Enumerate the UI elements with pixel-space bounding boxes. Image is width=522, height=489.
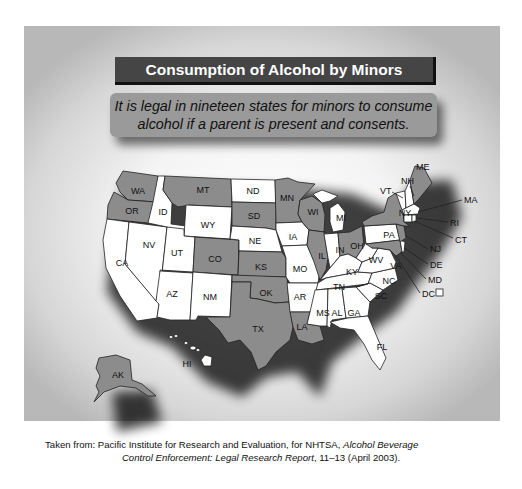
svg-text:OK: OK [259, 288, 272, 298]
svg-text:IL: IL [318, 251, 326, 261]
source-citation: Taken from: Pacific Institute for Resear… [36, 439, 486, 464]
svg-text:LA: LA [296, 322, 307, 332]
svg-text:MI: MI [336, 213, 346, 223]
svg-text:AR: AR [294, 292, 307, 302]
svg-text:NC: NC [383, 276, 396, 286]
svg-text:PA: PA [383, 230, 394, 240]
source-line-1: Taken from: Pacific Institute for Resear… [36, 439, 486, 452]
source-line-2: Control Enforcement: Legal Research Repo… [122, 452, 400, 463]
svg-text:NM: NM [203, 292, 217, 302]
svg-text:NE: NE [249, 236, 262, 246]
svg-text:KY: KY [346, 267, 358, 277]
svg-text:OH: OH [350, 241, 364, 251]
svg-text:WY: WY [201, 220, 216, 230]
svg-text:ND: ND [247, 186, 260, 196]
svg-text:OR: OR [125, 206, 139, 216]
state-RI[interactable] [412, 215, 416, 222]
svg-text:ID: ID [159, 207, 169, 217]
svg-text:NH: NH [401, 176, 414, 186]
svg-text:GA: GA [347, 308, 360, 318]
svg-text:NY: NY [399, 208, 412, 218]
svg-text:DC: DC [422, 289, 435, 299]
svg-text:DE: DE [430, 260, 443, 270]
svg-text:IN: IN [336, 245, 345, 255]
svg-text:CO: CO [208, 254, 222, 264]
svg-text:KS: KS [255, 262, 267, 272]
svg-text:CT: CT [455, 235, 467, 245]
svg-text:AL: AL [331, 308, 342, 318]
svg-text:MN: MN [280, 193, 294, 203]
svg-text:SD: SD [248, 211, 261, 221]
svg-text:CA: CA [116, 258, 129, 268]
svg-text:IA: IA [289, 232, 298, 242]
dc-marker-icon [436, 289, 443, 296]
svg-text:MS: MS [316, 308, 330, 318]
svg-text:MA: MA [464, 195, 478, 205]
svg-text:MD: MD [428, 275, 442, 285]
svg-text:NJ: NJ [430, 244, 441, 254]
svg-text:WI: WI [308, 207, 319, 217]
svg-text:AK: AK [112, 370, 124, 380]
us-map: WA OR CA NV ID MT WY UT AZ CO NM ND SD N… [0, 0, 522, 489]
svg-text:NV: NV [143, 240, 156, 250]
svg-text:MT: MT [197, 185, 210, 195]
svg-text:MO: MO [293, 264, 308, 274]
svg-text:TX: TX [252, 324, 264, 334]
svg-text:FL: FL [377, 342, 388, 352]
svg-text:WV: WV [369, 255, 384, 265]
svg-text:SC: SC [375, 291, 388, 301]
svg-text:HI: HI [183, 359, 192, 369]
svg-text:ME: ME [416, 162, 430, 172]
svg-text:UT: UT [171, 248, 183, 258]
svg-text:RI: RI [450, 218, 459, 228]
svg-text:TN: TN [333, 282, 345, 292]
svg-text:VT: VT [380, 186, 392, 196]
svg-text:WA: WA [131, 186, 145, 196]
svg-text:AZ: AZ [166, 289, 178, 299]
